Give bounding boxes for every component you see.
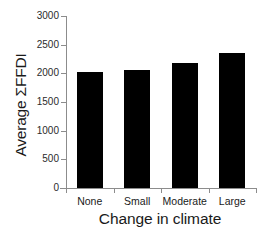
x-tick [256,188,257,193]
x-tick [114,188,115,193]
x-tick [209,188,210,193]
y-tick-label: 2000 [37,68,59,78]
x-tick-label-small: Small [124,196,150,207]
bar-chart-figure: Average ΣFFDI 050010001500200025003000 N… [0,0,277,242]
x-tick [161,188,162,193]
y-tick [61,73,66,74]
y-axis-line [66,16,67,188]
y-tick [61,45,66,46]
y-tick-label: 500 [42,154,59,164]
x-tick-label-none: None [77,196,102,207]
y-tick-label: 2500 [37,40,59,50]
bar-large [219,53,245,188]
x-tick [66,188,67,193]
plot-area: 050010001500200025003000 NoneSmallModera… [66,16,256,188]
y-tick-label: 1500 [37,97,59,107]
bar-small [124,70,150,188]
bar-moderate [172,63,198,188]
x-tick-label-large: Large [219,196,246,207]
y-tick-label: 1000 [37,126,59,136]
bar-none [77,72,103,188]
y-tick [61,131,66,132]
y-tick [61,16,66,17]
x-axis-title: Change in climate [60,210,260,228]
y-axis-title: Average ΣFFDI [10,20,32,190]
y-tick-label: 0 [53,183,59,193]
y-tick [61,159,66,160]
x-axis-line [60,188,256,189]
y-tick-label: 3000 [37,11,59,21]
y-tick [61,102,66,103]
x-tick-label-moderate: Moderate [163,196,207,207]
